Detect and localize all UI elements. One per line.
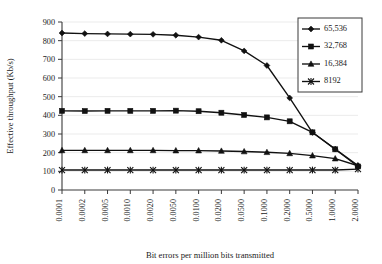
y-tick-label: 0: [51, 186, 55, 195]
x-tick-label: 0.5000: [305, 199, 314, 222]
y-axis-title: Effective throughput (Kb/s): [5, 58, 15, 153]
data-point-square: [82, 109, 87, 114]
data-point-diamond: [59, 30, 65, 36]
series-16384: [59, 147, 361, 168]
y-tick-label: 800: [43, 37, 55, 46]
data-point-square: [128, 108, 133, 113]
x-tick-label: 0.0002: [78, 199, 87, 222]
y-tick-label: 400: [43, 111, 55, 120]
data-point-square: [173, 108, 178, 113]
data-point-square: [333, 147, 338, 152]
x-tick-label: 0.0100: [192, 199, 201, 222]
x-tick-label: 0.0050: [169, 199, 178, 222]
data-point-square: [287, 119, 292, 124]
x-tick-label: 0.0001: [55, 199, 64, 222]
x-tick-label: 0.2000: [283, 199, 292, 222]
x-axis: 0.00010.00020.00050.00100.00200.00500.01…: [55, 190, 360, 222]
data-point-square: [310, 130, 315, 135]
x-tick-label: 0.0010: [123, 199, 132, 222]
x-tick-label: 0.0200: [214, 199, 223, 222]
data-point-diamond: [150, 31, 156, 37]
x-tick-label: 0.0500: [237, 199, 246, 222]
data-point-square: [264, 115, 269, 120]
data-point-square: [219, 110, 224, 115]
chart-legend: 65,53632,76816,3848192: [298, 18, 362, 92]
series-8192: [59, 166, 361, 174]
x-axis-title: Bit errors per million bits transmitted: [146, 250, 275, 260]
data-point-diamond: [127, 31, 133, 37]
legend-label: 65,536: [324, 24, 347, 33]
x-tick-label: 0.0005: [101, 199, 110, 222]
y-tick-label: 300: [43, 130, 55, 139]
legend-label: 16,384: [324, 59, 348, 68]
data-point-square: [309, 44, 314, 49]
data-point-square: [242, 112, 247, 117]
y-tick-label: 200: [43, 149, 55, 158]
series-32768: [60, 108, 361, 169]
data-point-square: [60, 108, 65, 113]
y-tick-label: 700: [43, 55, 55, 64]
y-tick-label: 500: [43, 93, 55, 102]
data-point-square: [105, 108, 110, 113]
data-point-square: [196, 109, 201, 114]
x-tick-label: 0.0020: [146, 199, 155, 222]
x-tick-label: 1.0000: [328, 199, 337, 222]
y-tick-label: 100: [43, 167, 55, 176]
data-point-square: [151, 108, 156, 113]
line-chart: 0100200300400500600700800900 0.00010.000…: [0, 0, 382, 264]
y-tick-label: 900: [43, 18, 55, 27]
legend-label: 32,768: [324, 41, 347, 50]
data-point-diamond: [105, 31, 111, 37]
y-tick-label: 600: [43, 74, 55, 83]
x-tick-label: 2.0000: [351, 199, 360, 222]
chart-container: 0100200300400500600700800900 0.00010.000…: [0, 0, 382, 264]
legend-label: 8192: [324, 76, 341, 85]
data-point-diamond: [196, 34, 202, 40]
data-point-diamond: [218, 37, 224, 43]
x-tick-label: 0.1000: [260, 199, 269, 222]
y-axis: 0100200300400500600700800900: [43, 18, 62, 195]
data-point-diamond: [82, 31, 88, 37]
data-point-diamond: [173, 32, 179, 38]
